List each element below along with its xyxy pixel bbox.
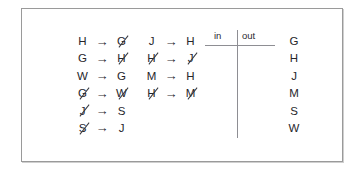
mapping-row: W→G	[76, 68, 128, 85]
letter-list-item: S	[287, 103, 301, 120]
mapping-target-letter: M	[184, 85, 197, 102]
in-out-header: in out	[205, 30, 275, 44]
mapping-column-2: J→HH→JM→HH→M	[145, 33, 197, 103]
mapping-source-letter: S	[76, 120, 89, 137]
arrow-icon: →	[89, 50, 115, 67]
letter-list-item: M	[287, 85, 301, 102]
letter-list-item: J	[287, 68, 301, 85]
mapping-source-letter: J	[76, 103, 89, 120]
in-out-divider-line	[237, 30, 238, 138]
arrow-icon: →	[158, 33, 184, 50]
letter-list-item: W	[287, 120, 301, 137]
in-column-label: in	[214, 30, 221, 41]
mapping-row: G→W	[76, 85, 128, 102]
mapping-source-letter: W	[76, 68, 89, 85]
letter-list: GHJMSW	[287, 33, 301, 137]
mapping-row: J→H	[145, 33, 197, 50]
mapping-target-letter: J	[115, 120, 128, 137]
mapping-row: M→H	[145, 68, 197, 85]
mapping-row: S→J	[76, 120, 128, 137]
in-out-table: in out	[205, 30, 275, 138]
arrow-icon: →	[89, 67, 115, 84]
mapping-target-letter: H	[115, 50, 128, 67]
mapping-target-letter: J	[184, 50, 197, 67]
arrow-icon: →	[158, 85, 184, 102]
mapping-target-letter: H	[184, 33, 197, 50]
mapping-row: H→M	[145, 85, 197, 102]
mapping-row: H→G	[76, 33, 128, 50]
mapping-target-letter: G	[115, 68, 128, 85]
mapping-source-letter: H	[76, 33, 89, 50]
arrow-icon: →	[158, 67, 184, 84]
mapping-source-letter: G	[76, 50, 89, 67]
in-out-header-rule	[205, 45, 275, 46]
mapping-source-letter: H	[145, 85, 158, 102]
arrow-icon: →	[89, 119, 115, 136]
arrow-icon: →	[89, 85, 115, 102]
mapping-source-letter: M	[145, 68, 158, 85]
arrow-icon: →	[89, 33, 115, 50]
mapping-source-letter: G	[76, 85, 89, 102]
mapping-target-letter: G	[115, 33, 128, 50]
mapping-row: H→J	[145, 50, 197, 67]
worksheet-frame: H→GG→HW→GG→WJ→SS→J J→HH→JM→HH→M in out G…	[21, 8, 343, 162]
mapping-target-letter: S	[115, 103, 128, 120]
arrow-icon: →	[89, 102, 115, 119]
mapping-row: J→S	[76, 103, 128, 120]
letter-list-item: G	[287, 33, 301, 50]
mapping-column-1: H→GG→HW→GG→WJ→SS→J	[76, 33, 128, 137]
mapping-target-letter: W	[115, 85, 128, 102]
mapping-row: G→H	[76, 50, 128, 67]
arrow-icon: →	[158, 50, 184, 67]
out-column-label: out	[242, 30, 255, 41]
mapping-source-letter: J	[145, 33, 158, 50]
letter-list-item: H	[287, 50, 301, 67]
mapping-source-letter: H	[145, 50, 158, 67]
mapping-target-letter: H	[184, 68, 197, 85]
